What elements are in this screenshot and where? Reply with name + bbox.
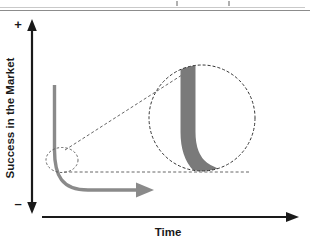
y-axis-label: Success in the Market [4,57,16,178]
y-axis-positive-sign: + [14,17,22,32]
figure-root: + – Success in the Market Time [0,0,310,242]
y-axis-arrow-down [27,202,37,214]
magnified-curve-band [188,60,268,180]
header-text-remnant-a [176,1,178,6]
magnified-content-group [188,60,268,180]
x-axis-arrow-right [286,212,299,222]
success-curve-arrowhead [136,183,154,198]
header-text-remnant-b [228,1,230,6]
diagram-canvas: + – Success in the Market Time [0,0,310,242]
success-curve [55,85,141,190]
callout-connector-upper [65,66,196,150]
x-axis-label: Time [155,226,182,238]
source-ellipse [46,148,78,173]
y-axis-negative-sign: – [14,196,21,211]
y-axis-arrow-up [27,19,37,31]
magnifier-circle [149,65,255,171]
